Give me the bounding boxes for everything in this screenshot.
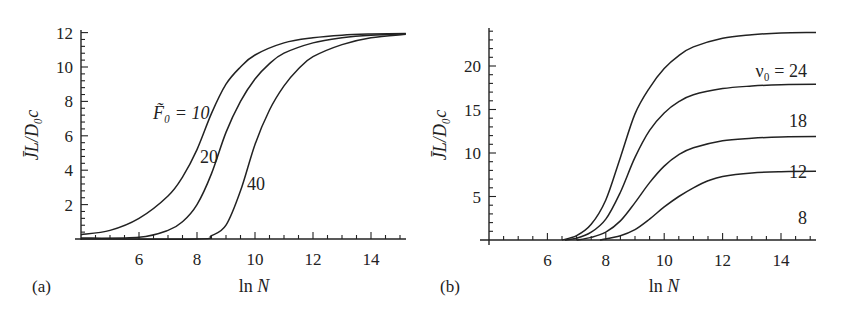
x-tick-label: 6 bbox=[543, 251, 552, 270]
figure: 6810121424681012 ln N J̄L/D₀c (a) F̃₀ = … bbox=[0, 0, 842, 316]
panel-a-y-axis-title: J̄L/D₀c bbox=[22, 110, 42, 160]
chart-panel-a: 6810121424681012 ln N J̄L/D₀c (a) F̃₀ = … bbox=[22, 24, 406, 296]
x-tick-label: 14 bbox=[773, 251, 791, 270]
curve-label-f0-20: 20 bbox=[200, 147, 218, 167]
curve-label-v0-24: ν₀ = 24 bbox=[755, 61, 807, 81]
curve-label-v0-12: 12 bbox=[789, 162, 807, 182]
panel-a-ticks bbox=[81, 33, 400, 239]
chart-panel-b: 681012145101520 ln N J̄L/D₀c (b) ν₀ = 24… bbox=[430, 28, 816, 296]
curve-label-v0-8: 8 bbox=[798, 208, 807, 228]
y-tick-label: 10 bbox=[464, 144, 481, 163]
y-tick-label: 6 bbox=[65, 127, 74, 146]
x-tick-label: 12 bbox=[305, 250, 322, 269]
panel-b-label: (b) bbox=[440, 277, 460, 296]
y-tick-label: 2 bbox=[65, 196, 74, 215]
curve-series-2 bbox=[577, 137, 816, 241]
x-tick-label: 10 bbox=[247, 250, 264, 269]
curve-label-f0-10: F̃₀ = 10 bbox=[152, 103, 209, 123]
y-tick-label: 12 bbox=[56, 24, 73, 43]
curve-series-1 bbox=[565, 84, 816, 240]
x-tick-label: 14 bbox=[363, 250, 381, 269]
x-tick-label: 10 bbox=[656, 251, 673, 270]
y-tick-label: 10 bbox=[56, 58, 73, 77]
panel-a-x-axis-title: ln N bbox=[239, 276, 271, 296]
curve-label-v0-18: 18 bbox=[789, 111, 807, 131]
panel-b-x-axis-title: ln N bbox=[649, 276, 681, 296]
x-tick-label: 6 bbox=[135, 250, 144, 269]
panel-b-tick-labels: 681012145101520 bbox=[464, 57, 790, 270]
curve-series-0 bbox=[81, 34, 406, 235]
y-tick-label: 15 bbox=[464, 101, 481, 120]
x-tick-label: 12 bbox=[714, 251, 731, 270]
panel-a-label: (a) bbox=[32, 277, 51, 296]
panel-a-curves bbox=[81, 34, 406, 240]
x-tick-label: 8 bbox=[602, 251, 611, 270]
panel-b-y-axis-title: J̄L/D₀c bbox=[430, 110, 450, 160]
x-tick-label: 8 bbox=[193, 250, 202, 269]
y-tick-label: 5 bbox=[473, 188, 482, 207]
y-tick-label: 20 bbox=[464, 57, 481, 76]
y-tick-label: 8 bbox=[65, 92, 74, 111]
curve-label-f0-40: 40 bbox=[247, 174, 265, 194]
y-tick-label: 4 bbox=[65, 161, 74, 180]
